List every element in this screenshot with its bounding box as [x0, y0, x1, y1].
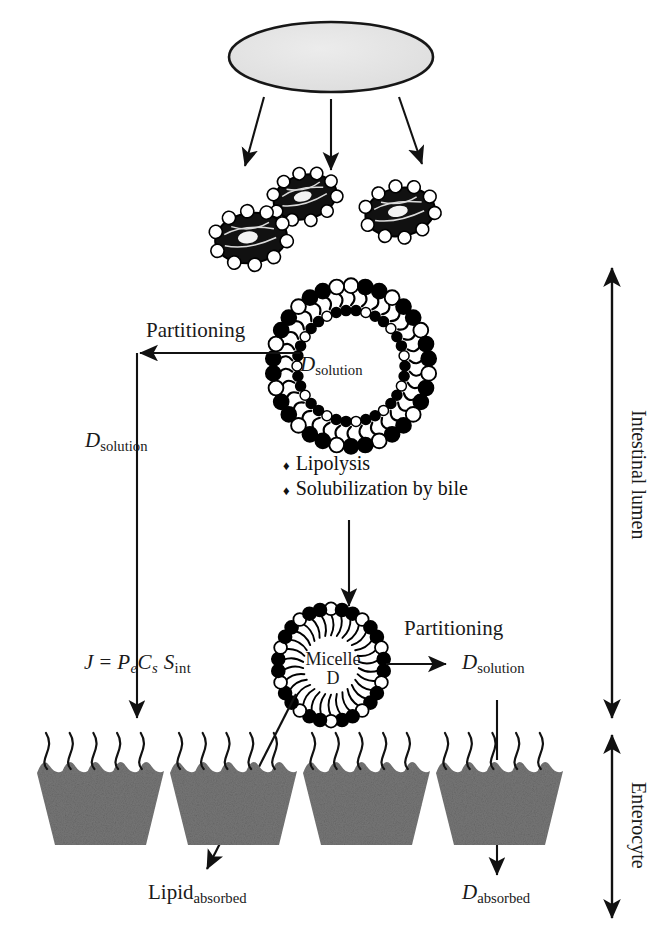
process-label: Lipolysis: [296, 452, 370, 475]
flux-equation: J = PeCs Sint: [84, 650, 191, 677]
micelle-label-line1: Micelle: [294, 650, 372, 669]
vesicle-label-sub: solution: [315, 362, 362, 378]
formulation-droplet-icon: [229, 22, 433, 92]
equation-equals: =: [99, 650, 111, 674]
micelle-label-line2: D: [294, 669, 372, 688]
dispersion-arrows: [245, 97, 422, 170]
lipid-absorbed-sub: absorbed: [194, 890, 247, 906]
process-label: Solubilization by bile: [296, 477, 468, 500]
equation-S-sub: int: [175, 660, 192, 676]
intestinal-lumen-label: Intestinal lumen: [627, 410, 650, 539]
enterocyte-row: [37, 733, 563, 845]
figure-canvas: Dsolution Micelle D Partitioning Partiti…: [0, 0, 660, 945]
d-absorbed-sub: absorbed: [477, 890, 530, 906]
vesicle-label-main: D: [300, 352, 315, 376]
process-bullet-list: ♦ Lipolysis ♦ Solubilization by bile: [283, 452, 468, 502]
emulsion-droplet-group: [205, 159, 445, 277]
list-item: ♦ Lipolysis: [283, 452, 468, 475]
partitioning-top-label: Partitioning: [146, 318, 245, 343]
vesicle-label: Dsolution: [300, 352, 363, 379]
bullet-icon: ♦: [283, 459, 290, 472]
lipid-absorbed-label: Lipidabsorbed: [148, 880, 247, 907]
enterocyte-compartment-label: Enterocyte: [627, 782, 650, 869]
list-item: ♦ Solubilization by bile: [283, 477, 468, 500]
partitioning-mid-label: Partitioning: [404, 616, 503, 641]
d-absorbed-label: Dabsorbed: [462, 880, 530, 907]
d-solution-left-label: Dsolution: [85, 428, 148, 455]
lipid-absorbed-main: Lipid: [148, 880, 194, 904]
d-solution-right-main: D: [462, 650, 477, 674]
d-solution-left-main: D: [85, 428, 100, 452]
d-solution-right-label: Dsolution: [462, 650, 525, 677]
bullet-icon: ♦: [283, 484, 290, 497]
equation-P: P: [117, 650, 130, 674]
micelle-label: Micelle D: [294, 650, 372, 689]
equation-C-sub: s: [152, 660, 158, 676]
equation-S: S: [164, 650, 175, 674]
equation-J: J: [84, 650, 94, 674]
d-absorbed-main: D: [462, 880, 477, 904]
d-solution-left-sub: solution: [100, 438, 147, 454]
d-solution-right-sub: solution: [477, 660, 524, 676]
equation-C: C: [137, 650, 151, 674]
